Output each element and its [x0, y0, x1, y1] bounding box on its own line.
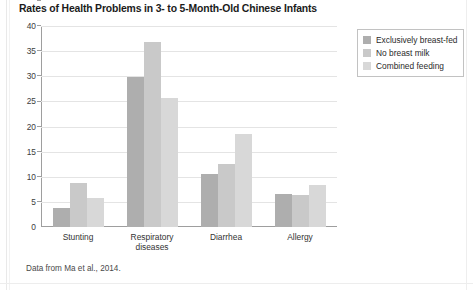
bar [235, 134, 252, 227]
y-axis-tick-mark [37, 50, 41, 51]
y-axis-tick-mark [37, 101, 41, 102]
x-axis-tick-label-line: diseases [107, 242, 197, 252]
y-axis-tick-mark [37, 151, 41, 152]
figure-page: Rates of Health Problems in 3- to 5-Mont… [0, 0, 473, 290]
legend: Exclusively breast-fedNo breast milkComb… [357, 29, 464, 77]
bar [218, 164, 235, 227]
y-axis-tick-label: 35 [12, 47, 36, 55]
plot-area [41, 26, 337, 227]
legend-item: Combined feeding [363, 60, 457, 72]
y-axis-tick-label: 10 [12, 173, 36, 181]
bar [70, 183, 87, 227]
x-axis-tick-label: Allergy [255, 232, 345, 242]
bar [144, 42, 161, 227]
legend-item-label: No breast milk [376, 49, 430, 57]
page-edge-right [466, 0, 467, 290]
y-axis-tick-mark [37, 75, 41, 76]
bar-group [275, 26, 326, 227]
y-axis-tick-mark [37, 126, 41, 127]
y-axis-tick-labels: 0510152025303540 [11, 26, 36, 227]
legend-swatch-icon [363, 62, 371, 70]
figure-title: Rates of Health Problems in 3- to 5-Mont… [19, 3, 317, 14]
legend-item-label: Combined feeding [376, 62, 444, 70]
page-edge-left [6, 0, 7, 290]
legend-item: Exclusively breast-fed [363, 34, 457, 46]
y-axis-tick-mark [37, 176, 41, 177]
y-axis-tick-label: 40 [12, 22, 36, 30]
y-axis-tick-label: 15 [12, 148, 36, 156]
bar-group [201, 26, 252, 227]
page-edge-left-inner [9, 0, 10, 290]
y-axis-tick-mark [37, 0, 41, 1]
y-axis-tick-label: 30 [12, 72, 36, 80]
legend-swatch-icon [363, 36, 371, 44]
bar [309, 185, 326, 227]
source-note: Data from Ma et al., 2014. [26, 264, 121, 273]
bar [127, 77, 144, 227]
bar [161, 98, 178, 227]
bar [275, 194, 292, 227]
bar [201, 174, 218, 227]
bar [53, 208, 70, 227]
legend-swatch-icon [363, 49, 371, 57]
y-axis-tick-label: 25 [12, 97, 36, 105]
x-axis-tick-label-line: Allergy [255, 232, 345, 242]
bar-group [53, 26, 104, 227]
bar [292, 195, 309, 227]
page-edge-bottom [0, 283, 473, 284]
y-axis-tick-label: 5 [12, 198, 36, 206]
legend-item-label: Exclusively breast-fed [376, 36, 457, 44]
bar [87, 198, 104, 227]
y-axis-tick-label: 0 [12, 223, 36, 231]
y-axis-tick-mark [37, 201, 41, 202]
y-axis-tick-mark [37, 25, 41, 26]
bar-group [127, 26, 178, 227]
y-axis-tick-label: 20 [12, 123, 36, 131]
legend-item: No breast milk [363, 47, 457, 59]
